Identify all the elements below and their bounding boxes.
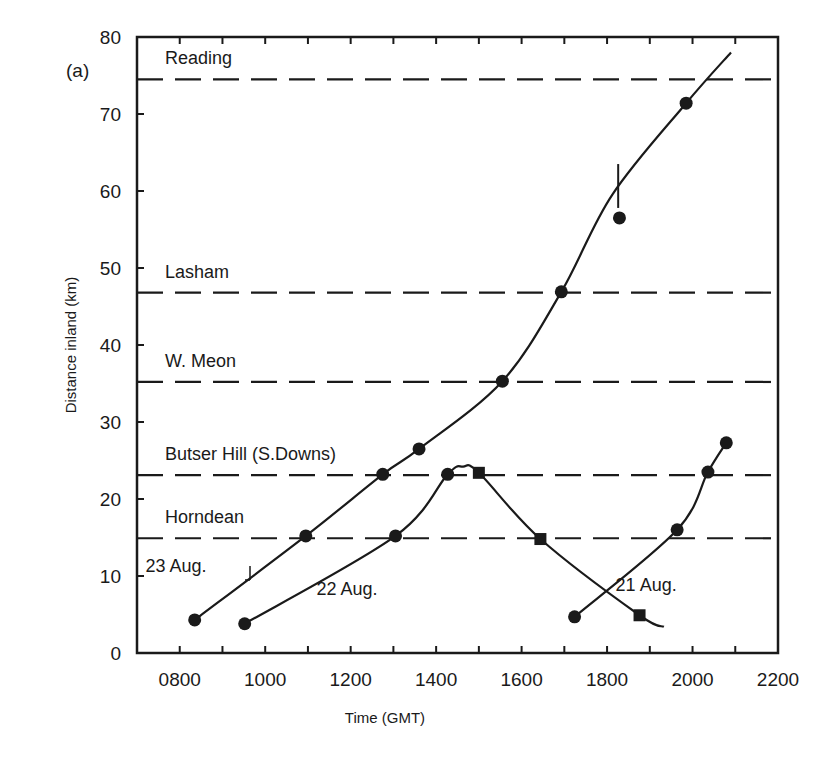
y-tick-label: 50 (100, 258, 121, 279)
x-tick-label: 0800 (159, 669, 201, 690)
x-tick-label: 1800 (586, 669, 628, 690)
circle-marker (680, 97, 693, 110)
circle-marker (671, 523, 684, 536)
x-tick-label: 1600 (500, 669, 542, 690)
y-tick-label: 40 (100, 335, 121, 356)
x-tick-label: 1200 (330, 669, 372, 690)
circle-marker (188, 613, 201, 626)
site-label: W. Meon (165, 351, 236, 371)
reference-lines (137, 79, 778, 538)
circle-marker (413, 442, 426, 455)
series-label: 23 Aug. (146, 556, 207, 576)
circle-marker (389, 529, 402, 542)
y-tick-label: 0 (110, 643, 121, 664)
y-tick-label: 70 (100, 104, 121, 125)
x-tick-label: 1000 (244, 669, 286, 690)
circle-marker (613, 211, 626, 224)
site-label: Lasham (165, 262, 229, 282)
x-axis-title: Time (GMT) (345, 709, 425, 726)
x-tick-label: 2000 (671, 669, 713, 690)
y-axis-title: Distance inland (km) (62, 277, 79, 414)
site-label: Butser Hill (S.Downs) (165, 444, 336, 464)
series-label: 22 Aug. (316, 579, 377, 599)
x-tick-label: 1400 (415, 669, 457, 690)
y-tick-label: 60 (100, 181, 121, 202)
y-tick-label: 10 (100, 566, 121, 587)
series-markers (188, 97, 733, 631)
series-curve (245, 465, 664, 627)
circle-marker (238, 617, 251, 630)
x-tick-label: 2200 (757, 669, 799, 690)
site-label: Reading (165, 48, 232, 68)
y-tick-label: 30 (100, 412, 121, 433)
plot-border (137, 37, 778, 653)
y-tick-label: 20 (100, 489, 121, 510)
square-marker (534, 533, 546, 545)
square-marker (473, 467, 485, 479)
series-curves (195, 52, 731, 626)
circle-marker (555, 285, 568, 298)
x-axis-ticks: 08001000120014001600180020002200 (159, 37, 800, 690)
circle-marker (376, 468, 389, 481)
series-curve (195, 52, 731, 619)
site-label: Horndean (165, 507, 244, 527)
chart: 08001000120014001600180020002200 0102030… (0, 0, 826, 759)
circle-marker (441, 468, 454, 481)
panel-label: (a) (66, 60, 89, 81)
circle-marker (496, 375, 509, 388)
square-marker (634, 609, 646, 621)
circle-marker (299, 529, 312, 542)
circle-marker (701, 466, 714, 479)
circle-marker (720, 436, 733, 449)
circle-marker (568, 610, 581, 623)
plot-frame (137, 37, 778, 653)
text-labels: ReadingLashamW. MeonButser Hill (S.Downs… (146, 48, 677, 599)
y-tick-label: 80 (100, 27, 121, 48)
series-label: 21 Aug. (616, 575, 677, 595)
